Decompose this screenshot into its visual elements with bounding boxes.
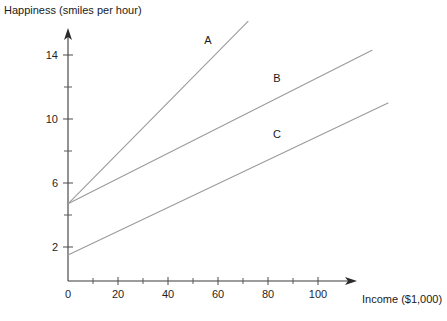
y-tick-label: 2 <box>52 241 58 253</box>
happiness-income-chart: 261014 020406080100 ABC Happiness (smile… <box>0 0 447 321</box>
x-tick-label: 100 <box>309 288 327 300</box>
series-labels-group: ABC <box>204 34 281 140</box>
x-axis-tick-labels: 020406080100 <box>65 288 327 300</box>
x-tick-label: 0 <box>65 288 71 300</box>
y-tick-label: 10 <box>46 113 58 125</box>
series-line-a <box>68 21 248 203</box>
x-axis-title: Income ($1,000) <box>362 293 442 305</box>
series-lines-group <box>68 21 388 255</box>
x-tick-label: 80 <box>262 288 274 300</box>
x-tick-label: 40 <box>162 288 174 300</box>
y-axis-tick-labels: 261014 <box>46 49 58 253</box>
series-label-c: C <box>273 128 281 140</box>
y-tick-label: 14 <box>46 49 58 61</box>
series-label-b: B <box>273 72 280 84</box>
series-label-a: A <box>204 34 212 46</box>
y-axis-title: Happiness (smiles per hour) <box>4 4 142 16</box>
chart-canvas: 261014 020406080100 ABC Happiness (smile… <box>0 0 447 321</box>
x-tick-label: 60 <box>212 288 224 300</box>
y-tick-label: 6 <box>52 177 58 189</box>
series-line-b <box>68 50 372 204</box>
x-tick-label: 20 <box>112 288 124 300</box>
